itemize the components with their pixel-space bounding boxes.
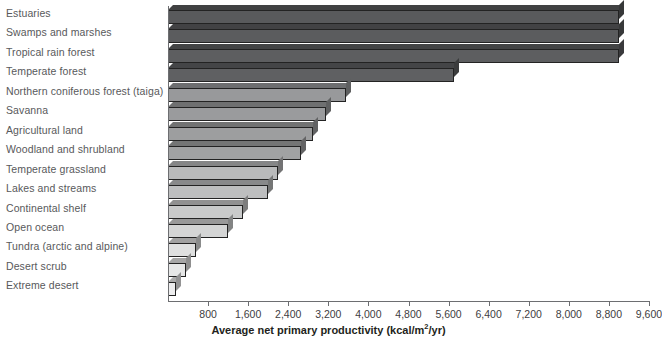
- category-label: Savanna: [6, 104, 48, 116]
- category-label: Extreme desert: [6, 279, 79, 291]
- x-axis-tick: [248, 301, 249, 306]
- bar-front-face: [168, 107, 326, 121]
- bar: [168, 166, 278, 180]
- category-label: Swamps and marshes: [6, 26, 112, 38]
- bar-side-face: [176, 272, 181, 291]
- category-label: Tundra (arctic and alpine): [6, 240, 128, 252]
- x-axis-tick-label: 2,400: [275, 308, 301, 320]
- category-label: Temperate grassland: [6, 163, 106, 175]
- x-axis-tick-label: 4,000: [355, 308, 381, 320]
- x-axis-tick: [409, 301, 410, 306]
- x-axis-tick: [368, 301, 369, 306]
- bar: [168, 10, 619, 24]
- x-axis-tick-label: 6,400: [476, 308, 502, 320]
- bar-side-face: [228, 214, 233, 233]
- bar: [168, 49, 619, 63]
- plot-area: [168, 0, 657, 302]
- x-axis-title-post: /yr): [429, 324, 446, 336]
- x-axis-tick: [328, 301, 329, 306]
- bar-side-face: [301, 136, 306, 155]
- category-label: Continental shelf: [6, 202, 86, 214]
- x-axis-tick: [649, 301, 650, 306]
- bar: [168, 29, 619, 43]
- x-axis-tick-label: 8,800: [596, 308, 622, 320]
- bar-front-face: [168, 185, 268, 199]
- x-axis-tick: [489, 301, 490, 306]
- bar-side-face: [196, 233, 201, 252]
- bar-front-face: [168, 68, 454, 82]
- category-label: Temperate forest: [6, 65, 86, 77]
- bar-front-face: [168, 282, 176, 296]
- bar-side-face: [619, 19, 624, 38]
- category-label: Estuaries: [6, 7, 51, 19]
- y-axis-line: [168, 6, 169, 302]
- category-label: Open ocean: [6, 221, 64, 233]
- category-label: Desert scrub: [6, 260, 67, 272]
- bar-side-face: [454, 58, 459, 77]
- bar-side-face: [313, 117, 318, 136]
- category-label-list: EstuariesSwamps and marshesTropical rain…: [0, 0, 168, 300]
- x-axis-tick-label: 4,800: [395, 308, 421, 320]
- x-axis-tick: [449, 301, 450, 306]
- bar-side-face: [243, 195, 248, 214]
- x-axis-tick-label: 7,200: [516, 308, 542, 320]
- bar-side-face: [278, 156, 283, 175]
- x-axis-tick-label: 8,000: [556, 308, 582, 320]
- x-axis-tick-label: 3,200: [315, 308, 341, 320]
- category-label: Agricultural land: [6, 124, 83, 136]
- bar: [168, 88, 346, 102]
- x-axis-title: Average net primary productivity (kcal/m…: [0, 322, 657, 336]
- bar: [168, 107, 326, 121]
- bar: [168, 68, 454, 82]
- bar-side-face: [268, 175, 273, 194]
- bar-front-face: [168, 127, 313, 141]
- x-axis-title-pre: Average net primary productivity (kcal/m: [211, 324, 424, 336]
- category-label: Lakes and streams: [6, 182, 96, 194]
- bar-front-face: [168, 49, 619, 63]
- x-axis-tick-label: 800: [199, 308, 217, 320]
- bar: [168, 185, 268, 199]
- bar-front-face: [168, 29, 619, 43]
- category-label: Northern coniferous forest (taiga): [6, 85, 163, 97]
- x-axis-tick-label: 5,600: [435, 308, 461, 320]
- bar-side-face: [619, 0, 624, 19]
- x-axis-tick: [569, 301, 570, 306]
- x-axis-tick-label: 9,600: [636, 308, 662, 320]
- bar-front-face: [168, 10, 619, 24]
- bar: [168, 282, 176, 296]
- bar-side-face: [619, 39, 624, 58]
- x-axis-tick: [529, 301, 530, 306]
- bar-front-face: [168, 243, 196, 257]
- category-label: Tropical rain forest: [6, 46, 95, 58]
- x-axis-tick: [208, 301, 209, 306]
- x-axis-tick-label: 1,600: [235, 308, 261, 320]
- bar: [168, 127, 313, 141]
- bar-front-face: [168, 166, 278, 180]
- bar: [168, 243, 196, 257]
- bar-front-face: [168, 88, 346, 102]
- bar-side-face: [346, 78, 351, 97]
- x-axis-tick: [609, 301, 610, 306]
- bar-side-face: [326, 97, 331, 116]
- x-axis-tick: [288, 301, 289, 306]
- category-label: Woodland and shrubland: [6, 143, 125, 155]
